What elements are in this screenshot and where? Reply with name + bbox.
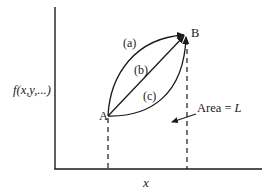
path-c-label: (c) [143,90,156,102]
point-a-label: A [99,110,108,123]
path-dependence-diagram: f(x,y,...) x A B (a) (b) (c) Area = L [0,0,275,195]
y-axis-label: f(x,y,...) [13,84,51,97]
area-annotation: Area = L [197,102,242,115]
diagram-canvas [0,0,275,195]
path-a-label: (a) [123,37,136,49]
point-b-label: B [191,27,199,40]
path-b-label: (b) [134,64,148,76]
area-annotation-var: L [235,101,242,115]
x-axis-label: x [143,176,149,189]
area-annotation-prefix: Area = [197,101,235,115]
area-arrow [172,114,196,122]
